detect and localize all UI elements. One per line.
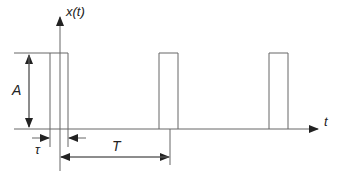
pulse-train-diagram	[0, 0, 340, 176]
amplitude-label: A	[12, 83, 21, 97]
pulse-1	[50, 53, 68, 129]
period-label: T	[112, 139, 121, 153]
pulse-2	[159, 53, 178, 129]
x-axis-label: t	[324, 115, 328, 128]
pulse-3	[269, 53, 288, 129]
y-axis-label: x(t)	[66, 5, 85, 18]
pulse-width-label: τ	[35, 143, 40, 156]
